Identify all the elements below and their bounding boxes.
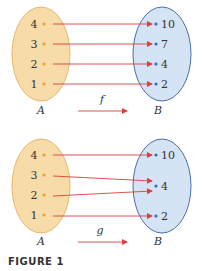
domain-element: 3 — [31, 38, 38, 51]
domain-element: 4 — [31, 149, 38, 162]
domain-element: 2 — [31, 58, 38, 71]
codomain-dot — [154, 82, 157, 85]
codomain-dot — [154, 22, 157, 25]
codomain-element: 4 — [161, 58, 168, 71]
domain-element: 2 — [31, 189, 38, 202]
codomain-label: B — [153, 235, 162, 248]
diagram-g: 4 3 2 1 10 4 2 A B g — [12, 139, 191, 248]
figure-caption: FIGURE 1 — [8, 256, 64, 267]
domain-element: 4 — [31, 18, 38, 31]
codomain-element: 2 — [161, 210, 168, 223]
function-label: f — [99, 93, 106, 106]
codomain-element: 10 — [161, 149, 175, 162]
domain-label: A — [36, 235, 45, 248]
domain-element: 1 — [31, 78, 38, 91]
domain-dot — [42, 213, 45, 216]
codomain-element: 10 — [161, 18, 175, 31]
codomain-dot — [154, 214, 157, 217]
codomain-element: 4 — [161, 180, 168, 193]
domain-dot — [42, 42, 45, 45]
set-a-ellipse — [12, 7, 70, 101]
codomain-element: 2 — [161, 78, 168, 91]
domain-dot — [42, 173, 45, 176]
function-label: g — [96, 224, 103, 237]
function-diagrams: 4 3 2 1 10 7 4 2 A B f 4 3 2 1 — [0, 0, 203, 271]
codomain-dot — [154, 184, 157, 187]
domain-element: 1 — [31, 209, 38, 222]
codomain-label: B — [153, 104, 162, 117]
codomain-element: 7 — [161, 38, 168, 51]
domain-dot — [42, 22, 45, 25]
domain-dot — [42, 62, 45, 65]
domain-dot — [42, 193, 45, 196]
codomain-dot — [154, 62, 157, 65]
domain-dot — [42, 82, 45, 85]
set-a-ellipse — [12, 139, 70, 233]
codomain-dot — [154, 153, 157, 156]
diagram-f: 4 3 2 1 10 7 4 2 A B f — [12, 7, 191, 117]
domain-element: 3 — [31, 169, 38, 182]
codomain-dot — [154, 42, 157, 45]
domain-dot — [42, 153, 45, 156]
domain-label: A — [36, 104, 45, 117]
